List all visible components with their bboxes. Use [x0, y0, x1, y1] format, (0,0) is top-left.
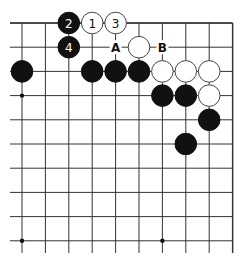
white-stone	[128, 36, 150, 58]
white-stone	[198, 61, 220, 83]
black-stone	[105, 61, 127, 83]
move-number: 4	[65, 41, 73, 55]
go-board: AB 2134	[0, 0, 246, 259]
black-stone	[175, 85, 197, 107]
black-stone	[175, 133, 197, 155]
black-stone	[81, 61, 103, 83]
star-point	[20, 93, 24, 97]
white-stone	[198, 85, 220, 107]
star-point	[160, 239, 164, 243]
black-stone	[198, 109, 220, 131]
move-number: 3	[112, 17, 120, 31]
black-stone	[128, 61, 150, 83]
move-number: 2	[65, 17, 73, 31]
board-grid	[10, 23, 233, 253]
star-point	[20, 239, 24, 243]
move-number: 1	[88, 17, 96, 31]
white-stone	[152, 61, 174, 83]
white-stone	[175, 61, 197, 83]
black-stone	[152, 85, 174, 107]
black-stone	[11, 61, 33, 83]
point-marker-b: B	[158, 41, 167, 55]
point-marker-a: A	[111, 41, 121, 55]
